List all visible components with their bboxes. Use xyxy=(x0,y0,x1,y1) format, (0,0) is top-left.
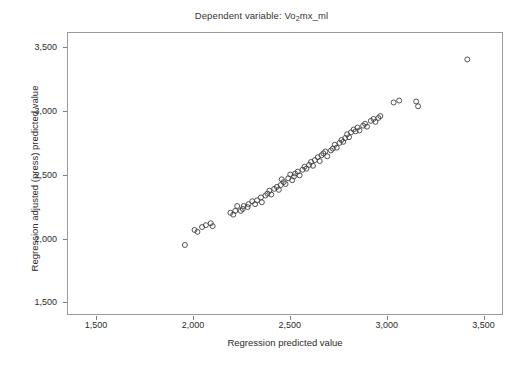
data-point xyxy=(325,154,330,159)
data-point xyxy=(259,200,264,205)
chart-title: Dependent variable: Vo2mx_ml xyxy=(0,10,523,21)
x-tick-mark xyxy=(96,316,97,320)
data-point xyxy=(465,57,470,62)
y-tick-mark xyxy=(63,47,67,48)
data-point xyxy=(235,204,240,209)
x-tick-label: 3,500 xyxy=(454,320,514,330)
scatter-plot-figure: Dependent variable: Vo2mx_ml 1,5002,0002… xyxy=(0,0,523,374)
y-tick-mark xyxy=(63,175,67,176)
data-point xyxy=(414,99,419,104)
data-point xyxy=(391,100,396,105)
plot-area xyxy=(67,32,503,315)
y-axis-title: Regression adjusted (press) predicted va… xyxy=(29,37,40,320)
x-tick-mark xyxy=(387,316,388,320)
data-point xyxy=(250,199,255,204)
data-points-layer xyxy=(68,33,502,314)
x-tick-label: 1,500 xyxy=(66,320,126,330)
y-tick-mark xyxy=(63,302,67,303)
x-tick-label: 2,500 xyxy=(260,320,320,330)
data-point xyxy=(182,243,187,248)
data-point xyxy=(397,98,402,103)
x-tick-label: 3,000 xyxy=(357,320,417,330)
x-tick-mark xyxy=(290,316,291,320)
x-tick-mark xyxy=(193,316,194,320)
x-axis-title: Regression predicted value xyxy=(67,337,503,348)
y-tick-mark xyxy=(63,239,67,240)
chart-title-prefix: Dependent variable: Vo xyxy=(195,10,296,21)
y-tick-mark xyxy=(63,111,67,112)
chart-title-subscript: 2 xyxy=(296,15,300,22)
x-tick-mark xyxy=(484,316,485,320)
chart-title-suffix: mx_ml xyxy=(300,10,328,21)
data-point xyxy=(416,104,421,109)
x-tick-label: 2,000 xyxy=(163,320,223,330)
